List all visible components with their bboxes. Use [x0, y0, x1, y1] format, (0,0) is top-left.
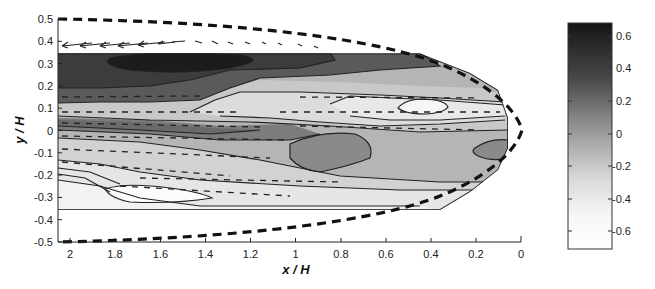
svg-text:1.6: 1.6 [153, 248, 168, 260]
svg-text:1.2: 1.2 [243, 248, 258, 260]
svg-text:0: 0 [616, 128, 622, 140]
svg-text:2: 2 [67, 248, 73, 260]
svg-text:0: 0 [518, 248, 524, 260]
svg-text:0.1: 0.1 [38, 102, 53, 114]
svg-text:0.6: 0.6 [616, 30, 631, 42]
svg-text:-0.2: -0.2 [612, 160, 631, 172]
svg-text:0.3: 0.3 [38, 58, 53, 70]
svg-text:0.4: 0.4 [616, 62, 631, 74]
svg-text:0.4: 0.4 [38, 35, 53, 47]
svg-text:-0.5: -0.5 [34, 236, 53, 248]
svg-text:0: 0 [47, 125, 53, 137]
y-axis-label: y / H [12, 116, 27, 145]
y-tick-labels: 0.5 0.4 0.3 0.2 0.1 0 -0.1 -0.2 -0.3 -0.… [34, 13, 53, 248]
svg-text:-0.4: -0.4 [34, 214, 53, 226]
svg-text:-0.1: -0.1 [34, 147, 53, 159]
svg-text:0.2: 0.2 [468, 248, 483, 260]
svg-text:1.8: 1.8 [107, 248, 122, 260]
contour-field [58, 53, 518, 211]
svg-text:-0.4: -0.4 [612, 193, 631, 205]
colorbar-tick-labels: 0.6 0.4 0.2 0 -0.2 -0.4 -0.6 [612, 30, 631, 237]
svg-text:0.6: 0.6 [378, 248, 393, 260]
svg-text:-0.3: -0.3 [34, 191, 53, 203]
svg-text:0.2: 0.2 [616, 95, 631, 107]
contour-chart: 0.5 0.4 0.3 0.2 0.1 0 -0.1 -0.2 -0.3 -0.… [0, 0, 655, 289]
colorbar: 0.6 0.4 0.2 0 -0.2 -0.4 -0.6 [568, 23, 631, 249]
svg-text:0.4: 0.4 [423, 248, 438, 260]
svg-text:1: 1 [292, 248, 298, 260]
svg-text:0.8: 0.8 [333, 248, 348, 260]
x-axis-label: x / H [281, 262, 310, 277]
svg-text:-0.6: -0.6 [612, 225, 631, 237]
x-tick-labels: 2 1.8 1.6 1.4 1.2 1 0.8 0.6 0.4 0.2 0 [67, 248, 524, 260]
svg-text:0.2: 0.2 [38, 80, 53, 92]
svg-text:0.5: 0.5 [38, 13, 53, 25]
svg-text:1.4: 1.4 [198, 248, 213, 260]
svg-text:-0.2: -0.2 [34, 169, 53, 181]
